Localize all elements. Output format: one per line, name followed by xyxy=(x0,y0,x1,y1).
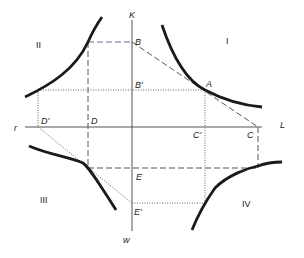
axis-label-K: K xyxy=(129,10,136,20)
curve-quadrant-II xyxy=(25,17,102,97)
point-label-B: B xyxy=(135,37,141,47)
axis-label-w: w xyxy=(123,235,130,245)
quadrant-label-I: I xyxy=(226,36,229,46)
point-label-D: D xyxy=(91,116,98,126)
point-label-A: A xyxy=(205,79,212,89)
quadrant-label-II: II xyxy=(36,40,41,50)
point-label-C: C xyxy=(247,130,254,140)
four-quadrant-diagram: K w r L I II III IV A B B' C C' D D' E E… xyxy=(0,0,304,258)
axis-label-L: L xyxy=(280,120,285,130)
quadrant-label-IV: IV xyxy=(242,199,251,209)
point-label-B-prime: B' xyxy=(135,80,143,90)
point-label-C-prime: C' xyxy=(193,130,201,140)
point-label-E: E xyxy=(136,172,143,182)
point-label-E-prime: E' xyxy=(134,207,142,217)
axis-label-r: r xyxy=(14,123,18,133)
quadrant-label-III: III xyxy=(40,195,48,205)
curve-quadrant-I xyxy=(162,25,262,107)
point-label-D-prime: D' xyxy=(41,116,49,126)
